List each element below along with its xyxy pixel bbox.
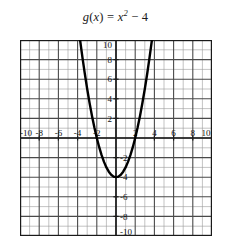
tick-label: 6	[108, 74, 113, 84]
tick-label: 8	[108, 55, 113, 65]
tick-label: -6	[55, 128, 63, 138]
title-rparen: )	[99, 10, 103, 24]
tick-label: -10	[20, 128, 32, 138]
tick-label: -6	[120, 192, 128, 202]
tick-label: 6	[171, 128, 176, 138]
tick-label: 2	[108, 114, 113, 124]
title-minus: −	[131, 10, 138, 24]
coordinate-plane: -10-8-6-4-2246810108642-2-4-6-8-10	[20, 40, 212, 236]
title-equals: =	[107, 10, 114, 24]
plot-area: -10-8-6-4-2246810108642-2-4-6-8-10	[20, 40, 212, 236]
tick-label: 10	[202, 128, 212, 138]
page-title: g(x) = x2 − 4	[0, 8, 231, 25]
tick-label: -4	[74, 128, 82, 138]
tick-label: 4	[108, 94, 113, 104]
tick-label: 10	[103, 40, 113, 50]
tick-label: -10	[120, 227, 132, 237]
tick-label: 4	[152, 128, 157, 138]
tick-label: -2	[120, 153, 128, 163]
tick-label: -8	[120, 212, 128, 222]
tick-label: -8	[35, 128, 43, 138]
title-exponent: 2	[123, 8, 127, 18]
title-constant: 4	[142, 10, 148, 24]
tick-label: 8	[191, 128, 196, 138]
graph-figure: g(x) = x2 − 4 -10-8-6-4-2246810108642-2-…	[0, 0, 231, 252]
